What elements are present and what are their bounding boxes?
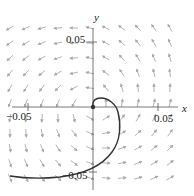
- field-arrow: [152, 54, 155, 61]
- field-arrow: [7, 70, 12, 76]
- field-arrow: [70, 72, 78, 74]
- field-arrow: [102, 41, 109, 45]
- y-tick-label-neg: −0.05: [62, 170, 87, 181]
- field-arrow: [103, 56, 110, 60]
- field-arrow: [137, 69, 140, 76]
- field-arrow: [40, 144, 43, 151]
- field-arrow: [71, 161, 78, 166]
- field-arrow: [168, 130, 173, 137]
- field-arrow: [40, 85, 45, 91]
- field-arrow: [8, 174, 11, 181]
- field-arrow: [55, 85, 61, 91]
- field-arrow: [102, 26, 109, 30]
- phase-portrait-chart: y x 0.05 −0.05 −0.05 0.05: [0, 0, 194, 196]
- field-arrow: [168, 25, 172, 32]
- field-arrow: [9, 99, 12, 107]
- field-arrow: [103, 85, 108, 91]
- field-arrow: [135, 146, 142, 150]
- field-arrow: [39, 56, 46, 60]
- field-arrow: [167, 145, 173, 151]
- field-arrow: [136, 115, 140, 122]
- field-arrow: [169, 54, 171, 62]
- field-arrow: [73, 114, 75, 122]
- field-arrow: [103, 71, 109, 76]
- field-arrow: [135, 130, 141, 135]
- field-arrow: [118, 147, 126, 150]
- field-arrow: [152, 25, 157, 32]
- field-arrow: [57, 129, 60, 137]
- field-arrow: [102, 178, 110, 179]
- field-arrow: [86, 131, 93, 134]
- field-arrow: [9, 159, 11, 167]
- field-arrow: [40, 160, 44, 167]
- field-arrow: [7, 26, 14, 30]
- field-arrow: [70, 58, 78, 59]
- field-arrow: [120, 70, 124, 77]
- field-arrow: [169, 99, 171, 107]
- field-arrow: [121, 99, 122, 107]
- y-axis-label: y: [94, 12, 99, 23]
- origin-point: [91, 105, 95, 109]
- field-arrow: [167, 176, 174, 180]
- field-arrow: [55, 160, 60, 166]
- field-arrow: [24, 159, 27, 166]
- x-tick-label-pos: 0.05: [154, 113, 173, 124]
- field-arrow: [23, 41, 30, 45]
- field-arrow: [56, 99, 59, 106]
- field-arrow: [102, 132, 110, 133]
- field-arrow: [121, 84, 123, 92]
- y-tick-label-pos: 0.05: [66, 34, 85, 45]
- field-arrow: [23, 56, 29, 61]
- field-arrow: [170, 69, 171, 77]
- field-arrow: [167, 161, 173, 166]
- field-arrow: [118, 178, 126, 179]
- field-arrow: [119, 40, 125, 45]
- field-arrow: [54, 27, 62, 28]
- plot-area: [0, 0, 194, 196]
- field-arrow: [87, 116, 94, 120]
- field-arrow: [42, 114, 43, 122]
- field-arrow: [136, 40, 141, 46]
- field-arrow: [168, 39, 171, 46]
- field-arrow: [54, 42, 62, 44]
- field-arrow: [138, 84, 139, 92]
- field-arrow: [71, 145, 77, 150]
- field-arrow: [25, 99, 28, 107]
- field-arrow: [26, 129, 27, 137]
- field-arrow: [72, 130, 77, 136]
- field-arrow: [38, 42, 45, 45]
- field-arrow: [41, 99, 44, 106]
- field-arrow: [39, 70, 45, 75]
- field-arrow: [153, 69, 155, 77]
- field-arrow: [7, 41, 13, 46]
- field-arrow: [56, 145, 60, 152]
- x-tick-label-neg: −0.05: [6, 111, 31, 122]
- field-arrow: [153, 99, 155, 107]
- field-arrow: [22, 26, 29, 29]
- field-arrow: [54, 57, 62, 60]
- field-arrow: [103, 116, 110, 120]
- field-arrow: [151, 145, 157, 150]
- field-arrow: [24, 85, 28, 92]
- field-arrow: [120, 115, 125, 121]
- field-arrow: [72, 99, 76, 106]
- field-arrow: [118, 162, 126, 163]
- field-arrow: [136, 55, 140, 62]
- field-arrow: [134, 161, 141, 164]
- field-arrow: [152, 40, 156, 47]
- field-arrow: [38, 27, 46, 29]
- field-arrow: [9, 144, 10, 152]
- field-arrow: [151, 161, 158, 165]
- field-arrow: [150, 176, 157, 179]
- field-arrow: [8, 85, 12, 92]
- field-arrow: [25, 144, 27, 152]
- field-arrow: [7, 55, 13, 60]
- field-arrow: [23, 70, 29, 76]
- field-arrow: [119, 26, 125, 31]
- field-arrow: [102, 163, 110, 164]
- field-arrow: [137, 99, 139, 107]
- field-arrow: [135, 25, 141, 31]
- x-axis-label: x: [182, 103, 187, 114]
- field-arrow: [151, 130, 156, 136]
- field-arrow: [134, 177, 142, 179]
